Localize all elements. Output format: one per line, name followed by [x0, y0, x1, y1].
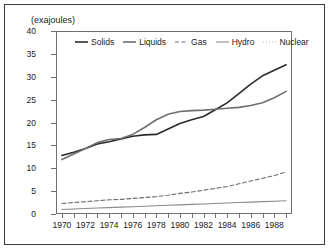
- x-axis-tick-mark: [215, 214, 216, 218]
- x-axis-tick-mark: [121, 214, 122, 218]
- chart-legend: SolidsLiquidsGasHydroNuclear: [75, 38, 309, 47]
- legend-item-liquids: Liquids: [123, 38, 166, 47]
- chart-screenshot: (exajoules) 0510152025303540 19701972197…: [0, 0, 332, 250]
- x-axis-tick-mark: [145, 214, 146, 218]
- x-axis-tick-mark: [109, 214, 110, 218]
- legend-item-nuclear: Nuclear: [263, 38, 308, 47]
- legend-item-solids: Solids: [75, 38, 114, 47]
- legend-swatch-gas: [175, 39, 188, 45]
- y-axis-tick-label: 35: [0, 49, 36, 59]
- x-axis-tick-label: 1988: [254, 220, 294, 230]
- legend-item-hydro: Hydro: [216, 38, 255, 47]
- x-axis-tick-mark: [86, 214, 87, 218]
- x-axis-tick-mark: [62, 214, 63, 218]
- y-axis-tick-label: 15: [0, 140, 36, 150]
- legend-swatch-solids: [75, 39, 88, 45]
- x-axis-tick-mark: [180, 214, 181, 218]
- legend-label: Solids: [91, 38, 114, 47]
- y-axis-tick-label: 30: [0, 72, 36, 82]
- plot-frame: [56, 31, 292, 214]
- x-axis-tick-mark: [204, 214, 205, 218]
- y-axis-tick-label: 25: [0, 95, 36, 105]
- legend-label: Hydro: [232, 38, 255, 47]
- legend-item-gas: Gas: [175, 38, 207, 47]
- y-axis-tick-label: 5: [0, 186, 36, 196]
- x-axis-tick-mark: [133, 214, 134, 218]
- y-axis-tick-label: 20: [0, 118, 36, 128]
- y-axis-tick-label: 0: [0, 209, 36, 219]
- y-axis-unit-label: (exajoules): [31, 15, 75, 25]
- plot-area: [56, 31, 292, 214]
- legend-swatch-nuclear: [263, 39, 276, 45]
- x-axis-tick-mark: [251, 214, 252, 218]
- x-axis-tick-mark: [168, 214, 169, 218]
- x-axis-tick-mark: [227, 214, 228, 218]
- y-axis-tick-mark: [51, 214, 56, 215]
- legend-swatch-liquids: [123, 39, 136, 45]
- x-axis-tick-mark: [239, 214, 240, 218]
- x-axis-tick-mark: [97, 214, 98, 218]
- legend-label: Liquids: [139, 38, 166, 47]
- x-axis-tick-mark: [263, 214, 264, 218]
- x-axis-tick-mark: [286, 214, 287, 218]
- legend-label: Gas: [191, 38, 207, 47]
- x-axis-tick-mark: [74, 214, 75, 218]
- y-axis-tick-label: 40: [0, 26, 36, 36]
- legend-label: Nuclear: [279, 38, 308, 47]
- x-axis-tick-mark: [274, 214, 275, 218]
- y-axis-tick-label: 10: [0, 163, 36, 173]
- x-axis-tick-mark: [192, 214, 193, 218]
- x-axis-tick-mark: [156, 214, 157, 218]
- legend-swatch-hydro: [216, 39, 229, 45]
